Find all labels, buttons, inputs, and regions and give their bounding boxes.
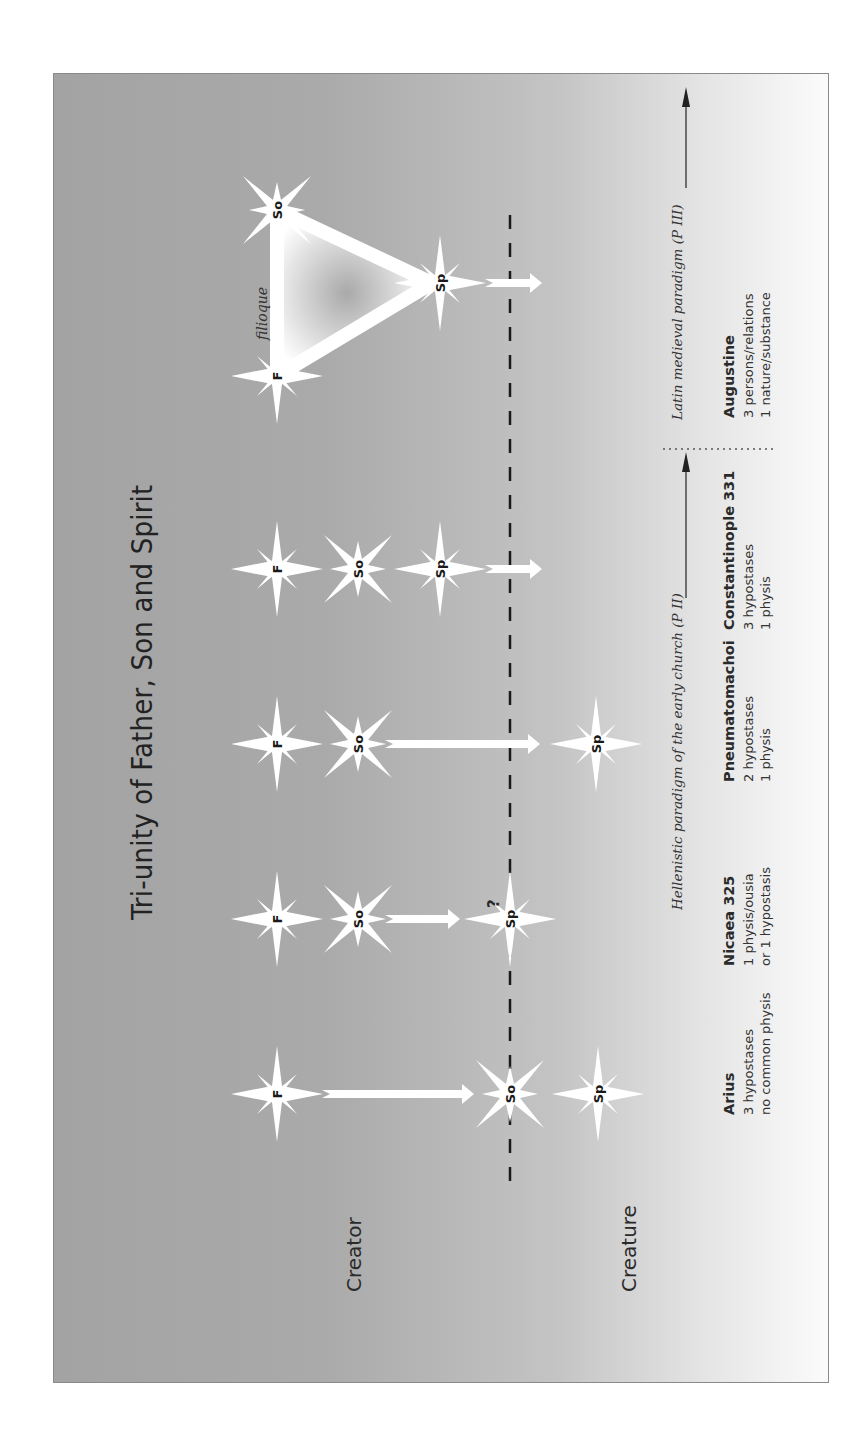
arrow-constantinople xyxy=(485,559,542,579)
position-constantinople: Constantinople 331 3 hypostases 1 physis xyxy=(721,471,774,630)
diagram-canvas: F So Sp F So Sp F So Sp F So Sp F So Sp … xyxy=(0,0,865,1438)
position-line: 3 hypostases xyxy=(740,471,757,630)
label-creator: Creator xyxy=(342,1217,366,1292)
svg-text:So: So xyxy=(351,735,366,753)
position-nicaea: Nicaea 325 1 physis/ousia or 1 hypostasi… xyxy=(721,867,774,966)
svg-text:Sp: Sp xyxy=(433,274,448,293)
svg-text:F: F xyxy=(270,740,285,749)
svg-text:F: F xyxy=(270,915,285,924)
position-line: 1 physis xyxy=(757,640,774,782)
svg-text:So: So xyxy=(503,1085,518,1103)
arrow-pneumatomachoi xyxy=(385,734,540,754)
arrow-arius xyxy=(322,1084,474,1104)
svg-text:So: So xyxy=(270,201,285,219)
position-heading: Arius xyxy=(721,993,737,1115)
position-arius: Arius 3 hypostases no common physis xyxy=(721,993,774,1115)
position-line: 2 hypostases xyxy=(740,640,757,782)
page-title: Tri-unity of Father, Son and Spirit xyxy=(125,485,159,921)
svg-text:So: So xyxy=(351,560,366,578)
paradigm-p2-label: Hellenistic paradigm of the early church… xyxy=(669,593,685,910)
svg-text:F: F xyxy=(270,372,285,381)
position-heading: Nicaea 325 xyxy=(721,867,737,966)
question-mark: ? xyxy=(485,899,503,908)
svg-text:Sp: Sp xyxy=(503,910,518,929)
svg-text:Sp: Sp xyxy=(433,560,448,579)
position-augustine: Augustine 3 persons/relations 1 nature/s… xyxy=(721,292,774,418)
svg-text:Sp: Sp xyxy=(589,735,604,754)
paradigm-p3-arrowhead xyxy=(682,87,690,107)
position-line: 1 physis xyxy=(757,471,774,630)
label-creature: Creature xyxy=(617,1205,641,1292)
arrow-nicaea xyxy=(385,909,460,929)
position-pneumatomachoi: Pneumatomachoi 2 hypostases 1 physis xyxy=(721,640,774,782)
paradigm-p3-label: Latin medieval paradigm (P III) xyxy=(669,204,685,420)
position-line: 1 physis/ousia xyxy=(740,867,757,966)
arrow-augustine xyxy=(485,273,542,293)
position-line: or 1 hypostasis xyxy=(757,867,774,966)
position-line: 3 persons/relations xyxy=(740,292,757,418)
position-line: 3 hypostases xyxy=(740,993,757,1115)
position-heading: Augustine xyxy=(721,292,737,418)
svg-text:So: So xyxy=(351,910,366,928)
paradigm-p2-arrowhead xyxy=(682,452,690,472)
svg-text:Sp: Sp xyxy=(591,1085,606,1104)
position-line: 1 nature/substance xyxy=(757,292,774,418)
position-line: no common physis xyxy=(757,993,774,1115)
svg-text:F: F xyxy=(270,1090,285,1099)
filioque-label: filioque xyxy=(254,287,270,340)
position-heading: Pneumatomachoi xyxy=(721,640,737,782)
svg-text:F: F xyxy=(270,565,285,574)
position-heading: Constantinople 331 xyxy=(721,471,737,630)
